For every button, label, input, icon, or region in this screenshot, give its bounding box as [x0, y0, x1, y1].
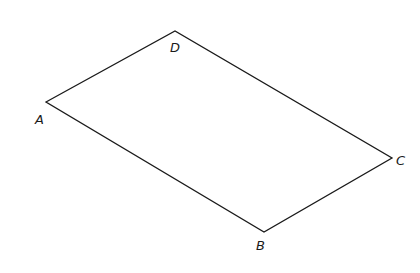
vertex-label-b: B: [256, 238, 265, 253]
vertex-label-d: D: [170, 40, 180, 55]
vertex-label-c: C: [396, 153, 406, 168]
vertex-label-a: A: [34, 112, 44, 127]
parallelogram-diagram: A D C B: [0, 0, 420, 273]
parallelogram-ABCD: [46, 31, 392, 232]
